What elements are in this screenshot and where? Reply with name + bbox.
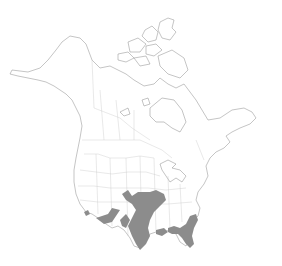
arctic-islands xyxy=(118,18,188,78)
north-america-map xyxy=(0,0,282,266)
range-map: North America species range map xyxy=(0,0,282,266)
